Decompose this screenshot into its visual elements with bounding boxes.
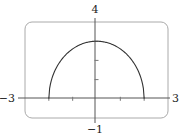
ymin-label: −1 <box>87 123 103 136</box>
viewing-window-frame <box>25 22 168 118</box>
curve <box>49 41 144 99</box>
xmax-label: 3 <box>172 92 179 105</box>
ymax-label: 4 <box>92 3 99 16</box>
graph: 4 −3 3 −1 <box>0 0 185 139</box>
xmin-label: −3 <box>0 92 15 105</box>
tick-marks <box>49 41 144 101</box>
